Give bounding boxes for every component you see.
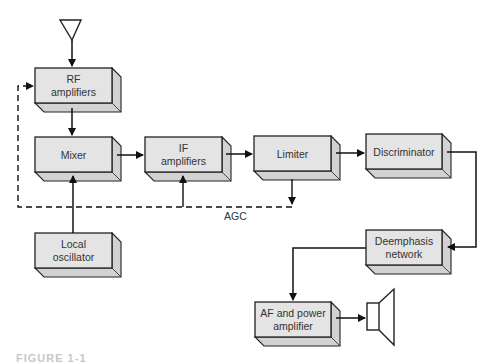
block-label: network	[386, 248, 424, 260]
block-af: AF and poweramplifier	[255, 302, 340, 346]
agc-label: AGC	[224, 210, 247, 222]
block-deemp: Deemphasisnetwork	[366, 230, 451, 274]
block-label: amplifiers	[51, 86, 96, 98]
block-rf: RFamplifiers	[35, 68, 121, 112]
block-mixer: Mixer	[35, 137, 121, 181]
block-label: IF	[179, 142, 188, 154]
block-label: amplifier	[273, 320, 313, 332]
block-lo: Localoscillator	[35, 233, 121, 277]
block-label: AF and power	[260, 307, 326, 319]
figure-caption: FIGURE 1-1	[16, 352, 87, 364]
antenna-icon	[60, 20, 81, 40]
block-label: oscillator	[53, 251, 95, 263]
block-label: Deemphasis	[375, 235, 433, 247]
block-label: RF	[67, 73, 81, 85]
deemphasis-to-af-line	[293, 248, 366, 300]
block-label: Local	[61, 238, 86, 250]
block-label: Mixer	[61, 149, 87, 161]
block-lim: Limiter	[254, 136, 340, 180]
block-label: amplifiers	[161, 155, 206, 167]
speaker-icon	[367, 289, 394, 345]
block-disc: Discriminator	[366, 134, 451, 178]
block-label: Discriminator	[373, 146, 435, 158]
block-if: IFamplifiers	[145, 137, 231, 181]
block-label: Limiter	[277, 148, 309, 160]
